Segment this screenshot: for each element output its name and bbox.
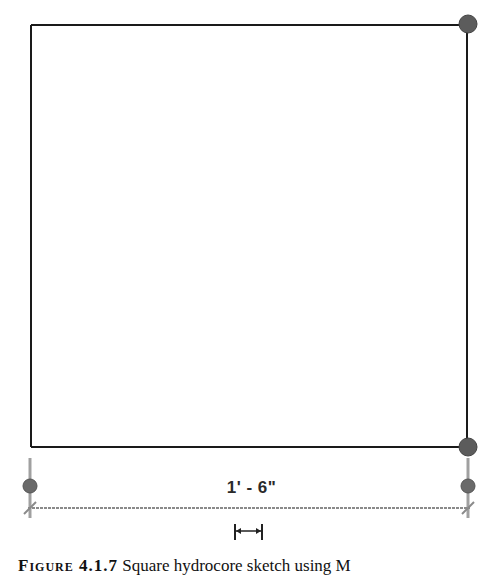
dimension-move-handle-icon[interactable] — [235, 524, 262, 540]
figure-number: Figure 4.1.7 — [18, 556, 118, 575]
corner-grip-top-right[interactable] — [459, 15, 477, 33]
dimension-line[interactable] — [24, 502, 474, 514]
dimension-value-label[interactable]: 1' - 6" — [0, 478, 503, 498]
figure-caption: Figure 4.1.7 Square hydrocore sketch usi… — [18, 556, 351, 576]
square-outline[interactable] — [31, 25, 467, 447]
caption-text: Square hydrocore sketch using M — [122, 556, 351, 575]
corner-grip-bottom-right[interactable] — [459, 438, 477, 456]
